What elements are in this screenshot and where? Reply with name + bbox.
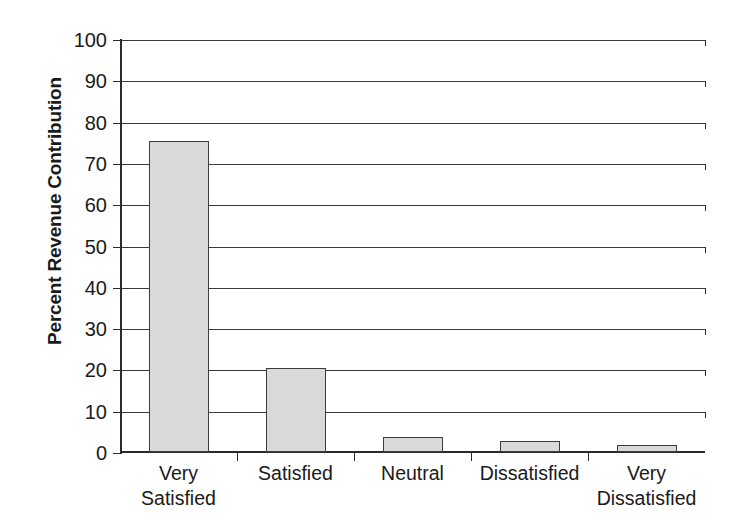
y-tick-label: 20: [47, 359, 107, 382]
y-tick-mark: [113, 370, 122, 371]
bar: [266, 368, 326, 452]
y-tick-mark: [113, 205, 122, 206]
gridline-end-tick: [705, 123, 706, 129]
gridline-end-tick: [705, 412, 706, 418]
gridline-end-tick: [705, 288, 706, 294]
gridline-end-tick: [705, 164, 706, 170]
y-tick-label: 30: [47, 318, 107, 341]
bar: [383, 437, 443, 452]
x-tick-mark: [471, 452, 472, 461]
x-axis-label: Satisfied: [237, 461, 354, 486]
y-tick-label: 70: [47, 152, 107, 175]
y-tick-label: 90: [47, 70, 107, 93]
y-tick-mark: [113, 247, 122, 248]
gridline-end-tick: [705, 247, 706, 253]
y-tick-label: 60: [47, 194, 107, 217]
gridline-end-tick: [705, 370, 706, 376]
x-axis-label-line1: Dissatisfied: [480, 462, 580, 484]
x-axis-labels-group: VerySatisfiedSatisfiedNeutralDissatisfie…: [120, 461, 705, 523]
bar: [500, 441, 560, 452]
x-tick-mark: [237, 452, 238, 461]
x-axis-label: VerySatisfied: [120, 461, 237, 511]
x-axis-label-line1: Very: [159, 462, 198, 484]
x-axis-label-line2: Dissatisfied: [588, 486, 705, 511]
y-tick-mark: [113, 453, 122, 454]
gridline: [120, 123, 705, 124]
x-axis-label-line1: Very: [627, 462, 666, 484]
gridline-end-tick: [705, 329, 706, 335]
y-tick-mark: [113, 329, 122, 330]
gridline-end-tick: [705, 205, 706, 211]
y-tick-label: 10: [47, 400, 107, 423]
y-tick-label: 80: [47, 111, 107, 134]
plot-area: 1009080706050403020100: [120, 40, 705, 453]
bar-chart: Percent Revenue Contribution 10090807060…: [0, 0, 729, 529]
x-axis-label: Dissatisfied: [471, 461, 588, 486]
gridline: [120, 40, 705, 41]
x-axis-label-line1: Neutral: [381, 462, 444, 484]
y-tick-mark: [113, 288, 122, 289]
gridline-end-tick: [705, 40, 706, 46]
x-tick-mark: [588, 452, 589, 461]
y-tick-label: 0: [47, 442, 107, 465]
y-tick-mark: [113, 412, 122, 413]
x-tick-mark: [354, 452, 355, 461]
y-tick-mark: [113, 81, 122, 82]
x-axis-label: Neutral: [354, 461, 471, 486]
bar: [617, 445, 677, 452]
x-axis-label-line2: Satisfied: [120, 486, 237, 511]
x-axis-label-line1: Satisfied: [258, 462, 333, 484]
y-tick-label: 40: [47, 276, 107, 299]
y-tick-label: 50: [47, 235, 107, 258]
y-tick-mark: [113, 123, 122, 124]
gridline-end-tick: [705, 81, 706, 87]
x-axis-label: VeryDissatisfied: [588, 461, 705, 511]
y-tick-mark: [113, 164, 122, 165]
y-tick-label: 100: [47, 29, 107, 52]
gridline: [120, 81, 705, 82]
y-tick-mark: [113, 40, 122, 41]
bar: [149, 141, 209, 452]
